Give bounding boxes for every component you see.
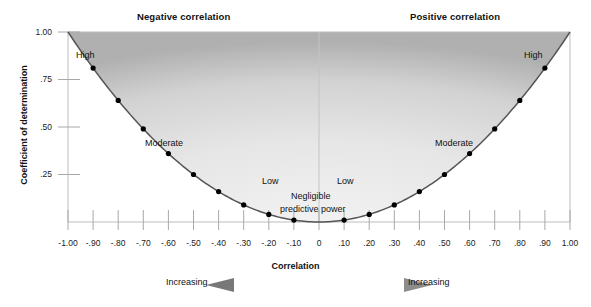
arrow-label-right: Increasing [408, 277, 450, 287]
x-tick-label: 1.00 [553, 238, 587, 248]
zone-label-moderate-right: Moderate [435, 138, 473, 148]
zone-label-low-right: Low [337, 176, 354, 186]
zone-label-high-left: High [76, 50, 95, 60]
y-tick-label: 1.00 [18, 27, 52, 37]
zone-label-negligible-line2: predictive power [280, 204, 346, 214]
zone-label-moderate-left: Moderate [145, 138, 183, 148]
header-negative-correlation: Negative correlation [137, 11, 230, 22]
zone-label-negligible-line1: Negligible [291, 191, 331, 201]
arrow-label-left: Increasing [166, 277, 208, 287]
x-axis-title: Correlation [0, 261, 591, 271]
zone-label-low-left: Low [262, 176, 279, 186]
chart-figure: Negative correlation Positive correlatio… [0, 0, 591, 307]
increasing-arrow [206, 278, 432, 292]
y-tick-label: .75 [18, 74, 52, 84]
y-tick-label: .50 [18, 122, 52, 132]
zone-label-high-right: High [524, 50, 543, 60]
y-tick-label: .25 [18, 169, 52, 179]
header-positive-correlation: Positive correlation [410, 11, 500, 22]
